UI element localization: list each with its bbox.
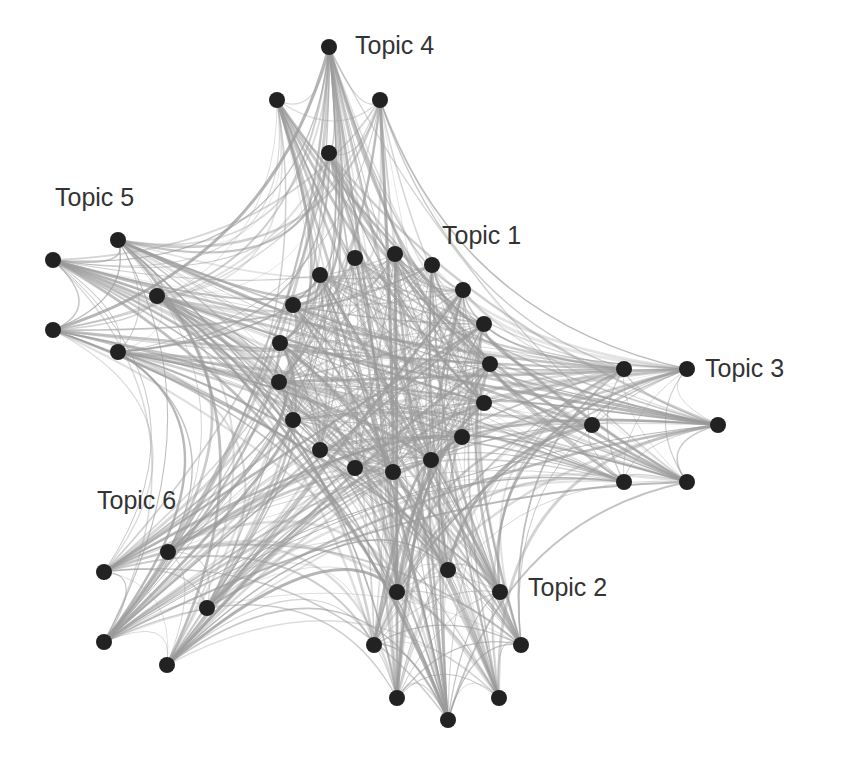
graph-node [455,282,471,298]
graph-node [199,600,215,616]
label-topic5: Topic 5 [55,185,134,210]
label-topic3: Topic 3 [705,356,784,381]
graph-node [476,395,492,411]
graph-node [584,417,600,433]
graph-node [149,288,165,304]
graph-node [389,584,405,600]
graph-node [321,145,337,161]
graph-node [285,297,301,313]
graph-node [160,544,176,560]
graph-node [710,417,726,433]
graph-node [312,267,328,283]
graph-node [321,39,337,55]
graph-node [110,232,126,248]
label-topic6: Topic 6 [97,488,176,513]
graph-node [389,690,405,706]
graph-node [372,92,388,108]
graph-node [272,335,288,351]
edge [53,47,329,261]
label-topic1: Topic 1 [442,223,521,248]
edge [665,369,687,482]
graph-node [110,344,126,360]
graph-node [616,474,632,490]
graph-node [347,250,363,266]
graph-node [159,657,175,673]
label-topic4: Topic 4 [355,33,434,58]
graph-node [440,562,456,578]
edges-layer [53,47,718,720]
graph-node [513,637,529,653]
graph-node [96,634,112,650]
graph-node [492,584,508,600]
graph-node [491,690,507,706]
graph-node [366,637,382,653]
edge [118,100,281,248]
graph-node [312,442,328,458]
edge [157,153,329,296]
label-topic2: Topic 2 [528,575,607,600]
graph-node [387,246,403,262]
graph-node [424,257,440,273]
graph-node [679,474,695,490]
graph-node [96,564,112,580]
graph-node [423,452,439,468]
graph-node [45,252,61,268]
graph-node [454,429,470,445]
graph-node [616,361,632,377]
graph-node [271,374,287,390]
graph-node [347,460,363,476]
graph-node [45,322,61,338]
graph-node [285,412,301,428]
graph-node [679,361,695,377]
graph-node [440,712,456,728]
graph-node [482,356,498,372]
graph-node [476,316,492,332]
graph-node [385,464,401,480]
graph-node [269,92,285,108]
